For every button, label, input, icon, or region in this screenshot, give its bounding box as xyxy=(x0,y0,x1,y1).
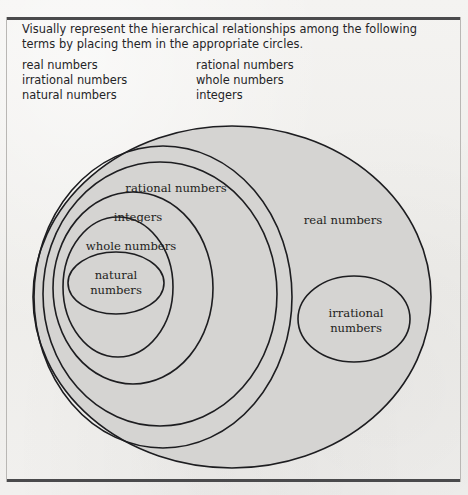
term-irrational-numbers: irrational numbers xyxy=(22,73,196,88)
top-rule xyxy=(6,17,461,20)
worksheet-page: Visually represent the hierarchical rela… xyxy=(0,0,468,495)
term-real-numbers: real numbers xyxy=(22,58,196,73)
term-rational-numbers: rational numbers xyxy=(196,58,434,73)
term-integers: integers xyxy=(196,88,434,103)
term-row: natural numbers integers xyxy=(22,88,434,103)
label-real-numbers: real numbers xyxy=(304,213,382,227)
term-row: irrational numbers whole numbers xyxy=(22,73,434,88)
label-whole-numbers: whole numbers xyxy=(86,239,176,253)
label-natural-numbers-line1: natural xyxy=(95,268,138,282)
label-rational-numbers: rational numbers xyxy=(125,181,226,195)
term-list: real numbers rational numbers irrational… xyxy=(22,58,434,103)
label-irrational-numbers-line2: numbers xyxy=(330,321,382,335)
term-row: real numbers rational numbers xyxy=(22,58,434,73)
label-integers: integers xyxy=(114,210,163,224)
label-natural-numbers-line2: numbers xyxy=(90,283,142,297)
term-natural-numbers: natural numbers xyxy=(22,88,196,103)
circle-real-numbers xyxy=(33,126,431,468)
venn-diagram: rational numbers integers whole numbers … xyxy=(0,110,468,480)
instruction-text: Visually represent the hierarchical rela… xyxy=(22,22,434,51)
term-whole-numbers: whole numbers xyxy=(196,73,434,88)
label-irrational-numbers-line1: irrational xyxy=(328,306,383,320)
